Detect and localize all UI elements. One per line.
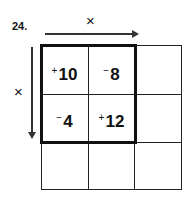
arrow-right-shaft: [45, 33, 133, 35]
problem-number: 24.: [12, 20, 27, 32]
arrow-right-head: [132, 30, 139, 38]
sign: −: [56, 112, 62, 123]
value: 12: [105, 112, 124, 131]
grid-line: [181, 45, 182, 190]
operation-symbol-top: ×: [86, 13, 95, 28]
cell-r3c1[interactable]: [41, 157, 88, 178]
value: 10: [58, 65, 77, 84]
operation-symbol-left: ×: [14, 84, 23, 99]
cell-r3c2[interactable]: [88, 157, 135, 178]
multiplication-grid: +10 −8 −4 +12: [41, 45, 182, 190]
cell-r2c3[interactable]: [134, 109, 181, 130]
cell-r1c3[interactable]: [134, 62, 181, 83]
arrow-down-head: [28, 132, 36, 139]
cell-r3c3[interactable]: [134, 157, 181, 178]
value: 4: [63, 112, 72, 131]
sign: +: [99, 112, 105, 123]
grid-line: [41, 189, 182, 190]
value: 8: [110, 65, 119, 84]
cell-r1c1: +10: [41, 62, 88, 83]
cell-r1c2: −8: [88, 62, 135, 83]
sign: −: [103, 65, 109, 76]
sign: +: [52, 65, 58, 76]
cell-r2c1: −4: [41, 109, 88, 130]
arrow-down-shaft: [31, 47, 33, 133]
cell-r2c2: +12: [88, 109, 135, 130]
